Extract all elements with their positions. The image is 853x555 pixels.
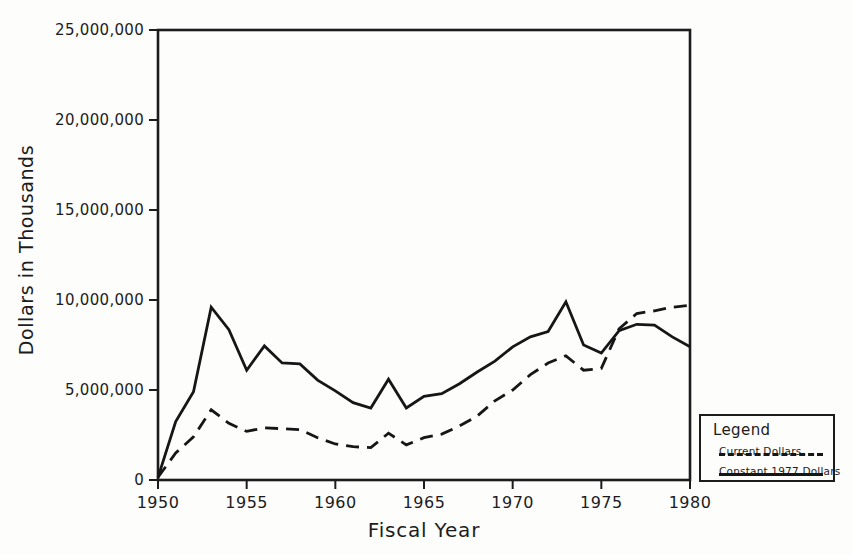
- y-tick-label: 20,000,000: [55, 111, 144, 129]
- chart-figure: 05,000,00010,000,00015,000,00020,000,000…: [0, 0, 853, 555]
- series-line-current-dollars: [158, 305, 690, 477]
- legend-entry-constant-1977-dollars: Constant 1977 Dollars: [719, 460, 825, 479]
- y-axis-ticks: 05,000,00010,000,00015,000,00020,000,000…: [55, 21, 158, 489]
- x-axis-ticks: 1950195519601965197019751980: [137, 480, 712, 512]
- y-tick-label: 0: [134, 471, 144, 489]
- y-tick-label: 25,000,000: [55, 21, 144, 39]
- x-axis-title: Fiscal Year: [368, 518, 480, 542]
- solid-line-sample: [719, 473, 823, 476]
- legend-title: Legend: [713, 421, 825, 439]
- y-tick-label: 15,000,000: [55, 201, 144, 219]
- x-tick-label: 1950: [137, 493, 180, 512]
- plot-area-border: [158, 30, 690, 480]
- y-axis-title: Dollars in Thousands: [15, 145, 37, 355]
- x-tick-label: 1965: [403, 493, 446, 512]
- x-tick-label: 1960: [314, 493, 357, 512]
- data-series-lines: [158, 302, 690, 478]
- legend: Legend Current Dollars Constant 1977 Dol…: [699, 414, 835, 482]
- x-tick-label: 1980: [669, 493, 712, 512]
- y-tick-label: 10,000,000: [55, 291, 144, 309]
- x-tick-label: 1970: [491, 493, 534, 512]
- dashed-line-sample: [719, 453, 823, 456]
- y-tick-label: 5,000,000: [65, 381, 144, 399]
- x-tick-label: 1975: [580, 493, 623, 512]
- legend-entry-current-dollars: Current Dollars: [719, 440, 825, 459]
- x-tick-label: 1955: [225, 493, 268, 512]
- series-line-constant-1977-dollars: [158, 302, 690, 478]
